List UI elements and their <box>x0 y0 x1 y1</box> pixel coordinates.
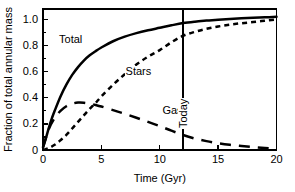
y-tick-label-2: 0.4 <box>23 92 38 103</box>
x-tick-label-3: 15 <box>198 154 238 165</box>
curve-gas <box>43 103 277 149</box>
y-tick-label-4: 0.8 <box>23 40 38 51</box>
y-axis-title: Fraction of total annular mass <box>3 7 14 152</box>
x-tick-label-2: 10 <box>140 154 180 165</box>
x-tick-label-0: 0 <box>23 154 63 165</box>
plot-frame <box>43 9 277 150</box>
y-tick-label-1: 0.2 <box>23 118 38 129</box>
curve-label-stars: Stars <box>125 66 153 77</box>
axes-group <box>43 9 277 150</box>
chart-figure: Fraction of total annular mass Time (Gyr… <box>0 0 294 192</box>
today-annotation-label: Today <box>178 97 189 128</box>
curve-label-total: Total <box>58 34 83 45</box>
x-tick-label-4: 20 <box>257 154 295 165</box>
x-tick-label-1: 5 <box>81 154 121 165</box>
x-axis-title: Time (Gyr) <box>0 173 294 184</box>
y-tick-label-5: 1.0 <box>23 14 38 25</box>
y-tick-label-3: 0.6 <box>23 66 38 77</box>
